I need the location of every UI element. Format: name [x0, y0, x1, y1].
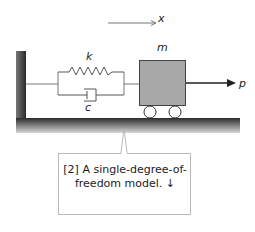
displacement-arrow — [108, 21, 156, 26]
displacement-label: x — [157, 12, 165, 25]
sdof-diagram: x k c m p — [0, 0, 255, 232]
wheel-right — [169, 106, 181, 118]
force-label: p — [238, 77, 246, 90]
spring-icon — [58, 67, 124, 75]
mass-label: m — [157, 41, 168, 54]
ground — [16, 118, 240, 133]
mass-block — [140, 61, 186, 106]
damper-icon — [58, 89, 124, 101]
fixed-wall — [16, 51, 26, 121]
callout-caption: [2] A single-degree-of- freedom model. ↓ — [60, 163, 190, 191]
callout-line-1: [2] A single-degree-of- — [60, 163, 190, 177]
spring-damper-frame — [58, 72, 124, 95]
damping-label: c — [85, 101, 91, 114]
stiffness-label: k — [86, 50, 93, 63]
wheel-left — [144, 106, 156, 118]
force-arrow — [186, 79, 236, 87]
callout-line-2: freedom model. ↓ — [60, 177, 190, 191]
